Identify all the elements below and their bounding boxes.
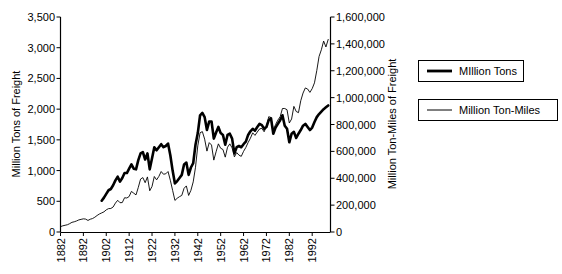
y-axis-left-tick-label: 3,500 bbox=[27, 11, 55, 23]
y-axis-right-tick-label: 0 bbox=[336, 226, 342, 238]
y-axis-right-tick-label: 400,000 bbox=[336, 172, 376, 184]
y-axis-left-tick-label: 500 bbox=[37, 195, 55, 207]
x-axis-tick-label: 1922 bbox=[146, 238, 158, 262]
x-axis-tick-label: 1882 bbox=[55, 238, 67, 262]
y-axis-left-tick-label: 1,500 bbox=[27, 134, 55, 146]
chart-figure: 05001,0001,5002,0002,5003,0003,500 0200,… bbox=[0, 0, 562, 274]
legend-label-million-ton-miles: Million Ton-Miles bbox=[459, 104, 541, 116]
series-line-million-tons bbox=[102, 105, 329, 200]
legend-item-million-ton-miles[interactable]: Million Ton-Miles bbox=[419, 100, 558, 121]
chart-canvas: 05001,0001,5002,0002,5003,0003,500 0200,… bbox=[0, 0, 562, 274]
x-axis-tick-label: 1952 bbox=[215, 238, 227, 262]
y-axis-left-tick-label: 0 bbox=[49, 226, 55, 238]
legend-item-million-tons[interactable]: MIllion Tons bbox=[419, 61, 524, 82]
y-axis-right-tick-label: 1,000,000 bbox=[336, 92, 385, 104]
y-axis-right-tick-label: 800,000 bbox=[336, 119, 376, 131]
y-axis-left-tick-label: 1,000 bbox=[27, 165, 55, 177]
x-axis-tick-label: 1902 bbox=[100, 238, 112, 262]
y-axis-right-tick-label: 200,000 bbox=[336, 199, 376, 211]
y-axis-right-title: Million Ton-Miles of Freight bbox=[386, 59, 398, 190]
y-axis-right-tick-label: 1,600,000 bbox=[336, 11, 385, 23]
y-axis-right-tick-label: 1,400,000 bbox=[336, 38, 385, 50]
x-axis-tick-label: 1942 bbox=[192, 238, 204, 262]
y-axis-left-tick-labels: 05001,0001,5002,0002,5003,0003,500 bbox=[27, 11, 55, 238]
y-axis-left-tick-label: 3,000 bbox=[27, 42, 55, 54]
x-axis-tick-label: 1932 bbox=[169, 238, 181, 262]
x-axis-tick-labels: 1882189219021912192219321942195219621972… bbox=[55, 238, 319, 262]
y-axis-left-title: Million Tons of Freight bbox=[10, 71, 22, 178]
legend-label-million-tons: MIllion Tons bbox=[459, 65, 517, 77]
y-axis-right-tick-label: 1,200,000 bbox=[336, 65, 385, 77]
x-axis-tick-label: 1962 bbox=[238, 238, 250, 262]
y-axis-left-tick-label: 2,000 bbox=[27, 103, 55, 115]
axis-tick-marks bbox=[57, 17, 335, 236]
x-axis-tick-label: 1912 bbox=[123, 238, 135, 262]
y-axis-left-tick-label: 2,500 bbox=[27, 72, 55, 84]
y-axis-right-tick-labels: 0200,000400,000600,000800,0001,000,0001,… bbox=[336, 11, 385, 238]
x-axis-tick-label: 1892 bbox=[77, 238, 89, 262]
y-axis-right-tick-label: 600,000 bbox=[336, 145, 376, 157]
x-axis-tick-label: 1992 bbox=[306, 238, 318, 262]
x-axis-tick-label: 1982 bbox=[283, 238, 295, 262]
x-axis-tick-label: 1972 bbox=[260, 238, 272, 262]
